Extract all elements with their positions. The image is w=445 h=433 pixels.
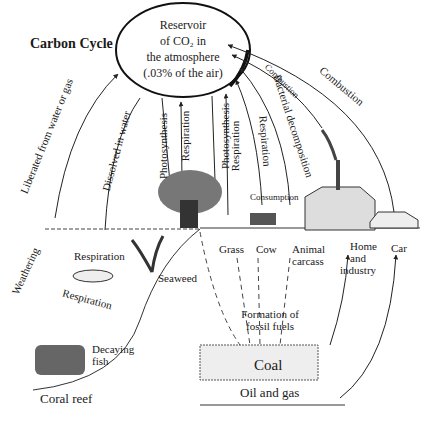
label-respiration-sea-1: Respiration xyxy=(74,250,125,262)
coral-icon xyxy=(35,345,85,375)
label-oil-gas: Oil and gas xyxy=(240,387,299,399)
label-home-3: industry xyxy=(340,264,376,276)
house-icon xyxy=(305,187,375,230)
label-consumption: Consumption xyxy=(250,191,299,203)
label-respiration-2: Respiration xyxy=(229,121,241,172)
label-animal-carcass-1: Animal xyxy=(292,243,325,255)
label-photosynthesis-1: Photosynthesis xyxy=(157,113,169,179)
label-decaying-1: Decaying xyxy=(92,343,134,355)
car-icon xyxy=(370,212,418,228)
label-respiration-1: Respiration xyxy=(179,111,191,162)
fish-icon xyxy=(73,270,113,282)
cow-icon xyxy=(250,213,276,225)
label-seaweed: Seaweed xyxy=(158,272,197,284)
reservoir-line-4: (.03% of the air) xyxy=(130,67,236,79)
diagram-canvas xyxy=(0,0,445,433)
label-home-1: Home xyxy=(350,240,377,252)
label-grass: Grass xyxy=(219,243,244,255)
label-coral-reef: Coral reef xyxy=(40,393,92,405)
seaweed-icon xyxy=(132,236,163,272)
label-fossil-1: Formation of xyxy=(225,308,315,320)
label-coal: Coal xyxy=(254,357,282,373)
reservoir-line-3: the atmosphere xyxy=(130,51,236,63)
reservoir-line-1: Reservoir xyxy=(130,19,236,31)
label-car: Car xyxy=(391,242,407,254)
label-home-2: and xyxy=(350,252,366,264)
label-cow: Cow xyxy=(256,243,277,255)
diagram-title: Carbon Cycle xyxy=(30,38,113,50)
label-animal-carcass-2: carcass xyxy=(292,255,324,267)
reservoir-line-2: of CO₂ in xyxy=(130,35,236,47)
label-fossil-2: fossil fuels xyxy=(225,320,315,332)
label-decaying-2: fish xyxy=(92,355,109,367)
